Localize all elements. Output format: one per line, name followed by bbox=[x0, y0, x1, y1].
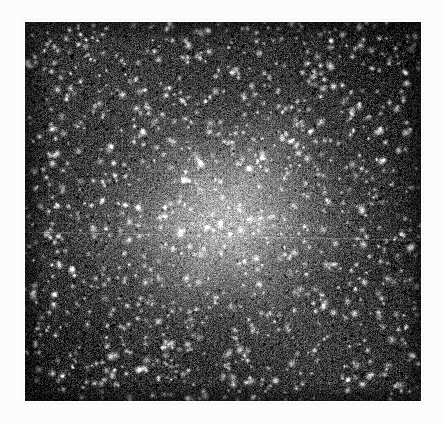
page-canvas bbox=[0, 0, 446, 425]
noise-field-plate bbox=[25, 22, 421, 401]
noise-field-canvas bbox=[25, 22, 421, 401]
